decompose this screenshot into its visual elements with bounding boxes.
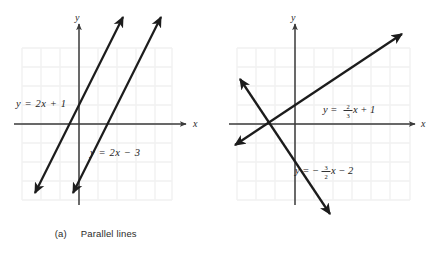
label-falling-suffix: x − 2	[330, 165, 354, 176]
label-falling-prefix: y = −	[294, 165, 319, 176]
label-rising-numerator: 2	[346, 103, 349, 110]
line-y-two-thirds-x-plus-1	[235, 34, 402, 145]
x-axis-label-a: x	[192, 118, 198, 129]
line-label-upper-a: y = 2x + 1	[15, 98, 67, 109]
graph-a: x y y = 2x + 1 y = 2x − 3	[0, 0, 215, 215]
graph-b: x y y = 2 3 x + 1 y = − 3 2 x − 2	[215, 0, 430, 215]
caption-a-label: (a)	[55, 228, 81, 240]
y-axis-label-b: y	[290, 12, 296, 23]
label-rising-prefix: y =	[322, 104, 337, 115]
x-axis-label-b: x	[420, 118, 426, 129]
line-y-neg-three-halves-x-minus-2	[240, 79, 330, 214]
label-falling-numerator: 3	[324, 164, 327, 171]
line-label-lower-a: y = 2x − 3	[89, 147, 141, 158]
line-label-rising-b: y = 2 3 x + 1	[322, 103, 375, 119]
line-label-falling-b: y = − 3 2 x − 2	[294, 164, 354, 180]
label-rising-suffix: x + 1	[352, 104, 375, 115]
figure-container: x y y = 2x + 1 y = 2x − 3 (a)Parallel li…	[0, 0, 430, 258]
label-falling-denominator: 2	[324, 173, 327, 180]
panel-perpendicular-lines: x y y = 2 3 x + 1 y = − 3 2 x − 2	[215, 0, 430, 258]
panel-parallel-lines: x y y = 2x + 1 y = 2x − 3 (a)Parallel li…	[0, 0, 215, 258]
caption-a: (a)Parallel lines	[38, 216, 137, 251]
label-rising-denominator: 3	[346, 112, 349, 119]
caption-a-text: Parallel lines	[81, 228, 137, 240]
y-axis-label-a: y	[74, 12, 80, 23]
